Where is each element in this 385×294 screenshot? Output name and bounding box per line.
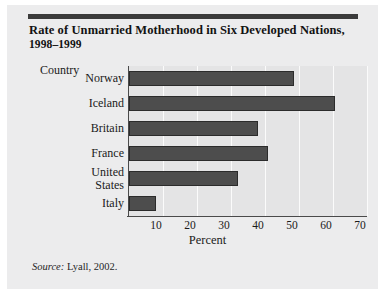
x-tick-label: 40	[252, 219, 264, 231]
category-label: United States	[14, 166, 124, 191]
title-rule	[28, 14, 358, 19]
plot-area	[128, 66, 367, 216]
bar	[129, 171, 238, 186]
bar-row	[129, 191, 156, 216]
gridline	[333, 66, 334, 216]
bar	[129, 196, 156, 211]
bar-row	[129, 66, 294, 91]
source-note: Source: Lyall, 2002.	[32, 261, 117, 272]
category-label: France	[14, 147, 124, 160]
figure-panel: Rate of Unmarried Motherhood in Six Deve…	[7, 5, 378, 289]
x-axis-title: Percent	[7, 233, 378, 248]
source-text: Lyall, 2002.	[67, 261, 117, 272]
bar	[129, 96, 335, 111]
x-tick-label: 60	[320, 219, 332, 231]
bar-row	[129, 166, 238, 191]
category-label: Iceland	[14, 97, 124, 110]
x-tick-label: 70	[354, 219, 366, 231]
plot-wrapper: Country NorwayIcelandBritainFranceUnited…	[7, 61, 378, 236]
x-tick-label: 30	[218, 219, 230, 231]
gridline	[299, 66, 300, 216]
x-tick-label: 10	[150, 219, 162, 231]
bar-row	[129, 91, 335, 116]
bar-row	[129, 141, 268, 166]
bar	[129, 146, 268, 161]
x-axis-line	[127, 216, 367, 217]
bar-row	[129, 116, 258, 141]
category-label: Norway	[14, 72, 124, 85]
x-tick-label: 50	[286, 219, 298, 231]
chart-title: Rate of Unmarried Motherhood in Six Deve…	[29, 23, 369, 51]
bar	[129, 121, 258, 136]
bar	[129, 71, 294, 86]
x-tick-label: 20	[184, 219, 196, 231]
chart-title-line-1: Rate of Unmarried Motherhood in Six Deve…	[29, 23, 369, 37]
category-labels: NorwayIcelandBritainFranceUnited StatesI…	[12, 66, 124, 216]
category-label: Britain	[14, 122, 124, 135]
chart-title-line-2: 1998–1999	[29, 37, 369, 51]
gridline	[367, 66, 368, 216]
category-label: Italy	[14, 197, 124, 210]
source-prefix: Source:	[32, 261, 64, 272]
